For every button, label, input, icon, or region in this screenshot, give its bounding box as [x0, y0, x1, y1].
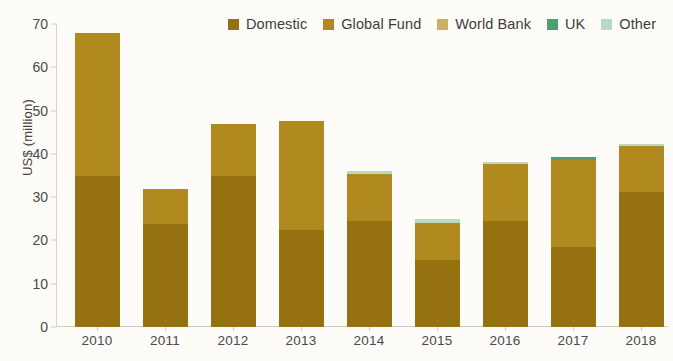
plot-area: 0102030405060702010201120122013201420152…	[56, 24, 668, 327]
y-axis-tick-label: 70	[8, 16, 48, 32]
bar-segment-global-fund[interactable]	[347, 174, 392, 221]
bar-segment-global-fund[interactable]	[619, 146, 664, 192]
x-axis-tick-mark	[165, 327, 166, 331]
y-axis-line	[56, 24, 57, 327]
y-axis-tick-mark	[51, 67, 56, 68]
x-axis-tick-label: 2014	[354, 333, 385, 348]
bar-stack-2016[interactable]	[483, 162, 528, 327]
bar-stack-2011[interactable]	[143, 189, 188, 327]
y-axis-tick-mark	[51, 24, 56, 25]
x-axis-tick-mark	[97, 327, 98, 331]
bar-segment-domestic[interactable]	[551, 247, 596, 327]
y-axis-tick-label: 40	[8, 146, 48, 162]
bar-segment-global-fund[interactable]	[211, 124, 256, 176]
bar-segment-domestic[interactable]	[347, 221, 392, 327]
bar-segment-global-fund[interactable]	[551, 160, 596, 247]
bar-segment-global-fund[interactable]	[415, 223, 460, 260]
x-axis-tick-mark	[301, 327, 302, 331]
bar-stack-2015[interactable]	[415, 219, 460, 327]
y-axis-tick-label: 0	[8, 319, 48, 335]
y-axis-tick-label: 60	[8, 59, 48, 75]
x-axis-tick-label: 2011	[150, 333, 180, 348]
x-axis-tick-label: 2016	[490, 333, 521, 348]
x-axis-tick-label: 2018	[626, 333, 657, 348]
x-axis-tick-mark	[505, 327, 506, 331]
bar-segment-domestic[interactable]	[211, 176, 256, 328]
bar-segment-global-fund[interactable]	[279, 121, 324, 230]
y-axis-tick-mark	[51, 327, 56, 328]
x-axis-tick-label: 2015	[422, 333, 453, 348]
stacked-bar-chart: DomesticGlobal FundWorld BankUKOther US$…	[0, 0, 673, 361]
bar-segment-domestic[interactable]	[415, 260, 460, 327]
bar-segment-domestic[interactable]	[143, 224, 188, 327]
bar-segment-domestic[interactable]	[75, 176, 120, 328]
x-axis-tick-mark	[573, 327, 574, 331]
bar-segment-global-fund[interactable]	[75, 33, 120, 176]
bar-segment-global-fund[interactable]	[143, 189, 188, 224]
x-axis-tick-mark	[369, 327, 370, 331]
bar-stack-2018[interactable]	[619, 144, 664, 327]
y-axis-tick-mark	[51, 153, 56, 154]
y-axis-tick-mark	[51, 283, 56, 284]
x-axis-tick-label: 2012	[218, 333, 249, 348]
bar-segment-domestic[interactable]	[279, 230, 324, 327]
y-axis-tick-label: 10	[8, 276, 48, 292]
bar-stack-2013[interactable]	[279, 121, 324, 327]
y-axis-tick-mark	[51, 110, 56, 111]
x-axis-tick-mark	[437, 327, 438, 331]
x-axis-tick-mark	[233, 327, 234, 331]
bar-segment-domestic[interactable]	[483, 221, 528, 327]
bar-stack-2010[interactable]	[75, 33, 120, 327]
x-axis-tick-mark	[641, 327, 642, 331]
x-axis-tick-label: 2017	[558, 333, 589, 348]
y-axis-tick-mark	[51, 197, 56, 198]
bar-segment-domestic[interactable]	[619, 192, 664, 327]
bar-stack-2012[interactable]	[211, 124, 256, 327]
y-axis-tick-label: 30	[8, 189, 48, 205]
y-axis-tick-mark	[51, 240, 56, 241]
y-axis-tick-label: 20	[8, 232, 48, 248]
y-axis-tick-label: 50	[8, 103, 48, 119]
x-axis-tick-label: 2010	[82, 333, 113, 348]
y-axis-title: US$ (million)	[20, 83, 35, 193]
bar-stack-2017[interactable]	[551, 157, 596, 327]
bar-segment-global-fund[interactable]	[483, 164, 528, 220]
x-axis-tick-label: 2013	[286, 333, 317, 348]
bar-stack-2014[interactable]	[347, 171, 392, 327]
